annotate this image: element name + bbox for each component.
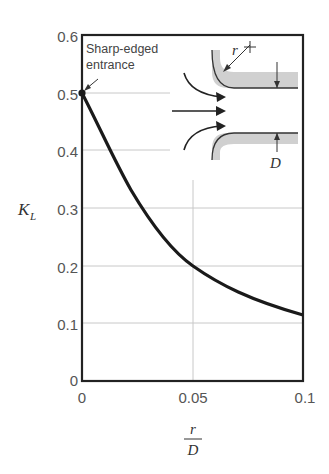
radius-label: r	[232, 42, 238, 58]
y-tick-0.5: 0.5	[57, 86, 78, 103]
x-tick-0.05: 0.05	[178, 389, 207, 406]
y-axis-label: K L	[17, 200, 36, 222]
y-tick-0.6: 0.6	[57, 28, 78, 45]
y-tick-0: 0	[70, 372, 78, 389]
annotation-line1: Sharp-edged	[86, 42, 158, 56]
x-tick-0: 0	[78, 389, 86, 406]
x-label-denominator: D	[187, 442, 199, 458]
y-label-sub: L	[29, 210, 36, 222]
x-tick-0.1: 0.1	[295, 389, 316, 406]
inset-background	[170, 42, 302, 167]
y-tick-0.1: 0.1	[57, 316, 78, 333]
annotation-line2: entrance	[86, 58, 135, 72]
chart: r D Sharp-edged entrance 0.6 0.5 0.4 0.3…	[0, 0, 329, 474]
x-axis-label: r D	[184, 421, 202, 458]
y-tick-0.4: 0.4	[57, 143, 78, 160]
y-tick-0.3: 0.3	[57, 201, 78, 218]
diameter-label: D	[269, 155, 281, 171]
y-label-main: K	[17, 200, 31, 219]
x-tick-labels: 0 0.05 0.1	[78, 389, 316, 406]
y-tick-labels: 0.6 0.5 0.4 0.3 0.2 0.1 0	[57, 28, 78, 389]
x-label-numerator: r	[190, 421, 196, 437]
y-tick-0.2: 0.2	[57, 259, 78, 276]
annotation-arrowhead	[84, 84, 91, 91]
